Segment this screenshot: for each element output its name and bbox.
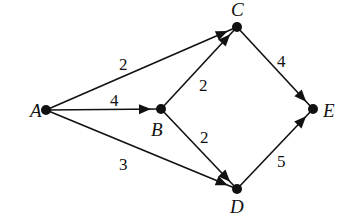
edge-weight-D-E: 5: [277, 152, 286, 171]
edge-weight-B-D: 2: [200, 128, 209, 147]
edge-weight-A-C: 2: [119, 55, 128, 74]
node-B: [156, 104, 166, 114]
edge-weight-C-E: 4: [277, 52, 286, 71]
node-label-B: B: [151, 119, 163, 140]
node-label-C: C: [231, 0, 244, 20]
edge-A-C: [46, 27, 237, 110]
edge-weight-B-C: 2: [199, 76, 208, 95]
edge-A-D: [46, 110, 237, 189]
node-E: [308, 104, 318, 114]
node-D: [232, 184, 242, 194]
node-label-E: E: [322, 100, 335, 121]
edges-layer: [46, 27, 313, 189]
node-label-D: D: [229, 196, 244, 216]
edge-weight-A-D: 3: [119, 155, 128, 174]
edge-weight-A-B: 4: [110, 91, 119, 110]
labels-layer: 2432245ABCDE: [28, 0, 335, 216]
node-C: [232, 22, 242, 32]
node-A: [41, 105, 51, 115]
node-label-A: A: [28, 100, 42, 121]
graph-diagram: 2432245ABCDE: [0, 0, 348, 216]
arrowhead-icon: [139, 104, 151, 114]
